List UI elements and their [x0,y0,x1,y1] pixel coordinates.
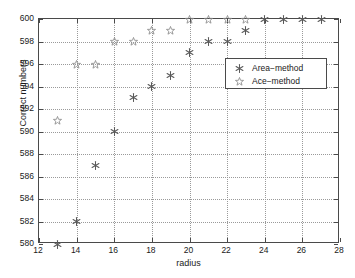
y-axis-tick [39,64,43,65]
x-axis-tick [265,19,266,23]
gridline-horizontal [39,42,338,43]
gridline-horizontal [39,177,338,178]
gridline-horizontal [39,154,338,155]
y-axis-tick-label: 586 [20,171,34,181]
gridline-vertical [114,19,115,242]
legend: Area−method Ace−method [225,58,327,89]
y-axis-tick [39,19,43,20]
x-axis-tick-label: 14 [71,245,80,255]
y-axis-tick [334,42,338,43]
data-point-ace-method [204,15,213,24]
x-axis-tick-label: 20 [184,245,193,255]
legend-entry-ace-method: Ace−method [226,74,326,88]
y-axis-tick-label: 584 [20,193,34,203]
x-axis-tick-label: 16 [109,245,118,255]
x-axis-tick-label: 12 [33,245,42,255]
gridline-vertical [227,19,228,242]
x-axis-tick [39,238,40,242]
x-axis-tick-label: 18 [146,245,155,255]
gridline-vertical [77,19,78,242]
y-axis-tick [334,64,338,65]
x-axis-tick [340,19,341,23]
x-axis-tick-label: 26 [297,245,306,255]
data-point-ace-method [241,15,250,24]
x-axis-tick [190,19,191,23]
gridline-horizontal [39,199,338,200]
gridline-horizontal [39,222,338,223]
data-point-area-method [241,26,250,35]
y-axis-tick-label: 580 [20,238,34,248]
x-axis-tick [227,19,228,23]
plot-area [38,18,339,243]
y-axis-tick [334,222,338,223]
data-point-area-method [129,93,138,102]
x-axis-tick [77,238,78,242]
gridline-horizontal [39,109,338,110]
data-point-area-method [166,71,175,80]
y-axis-tick [39,222,43,223]
y-axis-tick-label: 582 [20,216,34,226]
data-point-area-method [279,15,288,24]
x-axis-tick [340,238,341,242]
y-axis-tick [39,42,43,43]
y-axis-tick [334,154,338,155]
data-point-area-method [317,15,326,24]
gridline-vertical [190,19,191,242]
open-star-icon [226,74,252,88]
legend-label-ace-method: Ace−method [252,74,300,88]
x-axis-tick [190,238,191,242]
y-axis-tick [39,154,43,155]
x-axis-tick [114,19,115,23]
x-axis-tick [152,238,153,242]
filled-hexagram-icon [226,61,252,75]
y-axis-tick [334,109,338,110]
x-axis-tick [227,238,228,242]
x-axis-tick [302,238,303,242]
x-axis-tick [77,19,78,23]
x-axis-tick-label: 24 [259,245,268,255]
data-point-ace-method [166,26,175,35]
gridline-vertical [265,19,266,242]
gridline-horizontal [39,132,338,133]
y-axis-tick [39,109,43,110]
data-point-ace-method [53,116,62,125]
y-axis-tick [39,132,43,133]
x-axis-tick [114,238,115,242]
y-axis-tick [334,19,338,20]
y-axis-tick [334,177,338,178]
y-axis-tick [334,199,338,200]
x-axis-tick [302,19,303,23]
x-axis-tick [265,238,266,242]
gridline-vertical [152,19,153,242]
x-axis-tick [152,19,153,23]
legend-entry-area-method: Area−method [226,61,326,75]
y-axis-tick [39,87,43,88]
y-axis-tick [39,177,43,178]
y-axis-tick [334,132,338,133]
y-axis-tick-label: 600 [20,13,34,23]
legend-label-area-method: Area−method [252,61,303,75]
data-point-area-method [53,240,62,249]
y-axis-title: Correct numbers [18,33,28,153]
x-axis-tick-label: 22 [221,245,230,255]
chart-screenshot: 121416182022242628 580582584586588590592… [0,0,355,278]
gridline-vertical [302,19,303,242]
data-point-area-method [91,161,100,170]
x-axis-tick-label: 28 [334,245,343,255]
y-axis-tick [39,199,43,200]
x-axis-title: radius [38,258,339,268]
y-axis-tick [334,87,338,88]
